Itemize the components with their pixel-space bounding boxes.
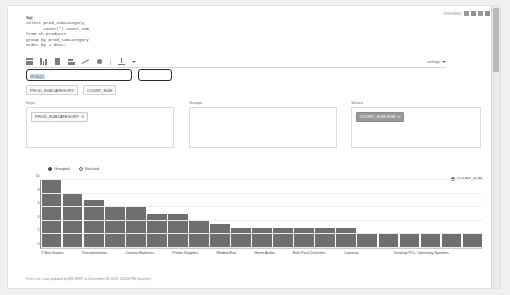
x-axis-tick bbox=[467, 251, 482, 255]
keys-chip[interactable]: PROD_SUBCATEGORY ✕ bbox=[31, 112, 88, 122]
settings-menu[interactable]: settings bbox=[427, 60, 446, 64]
chart-type-toolbar: settings bbox=[26, 56, 446, 68]
sql-editor[interactable]: Sql select prod_subcategory, count(*) co… bbox=[26, 15, 446, 49]
chevron-down-icon[interactable] bbox=[132, 61, 136, 63]
chart-bar[interactable] bbox=[231, 228, 250, 248]
chart-bar[interactable] bbox=[442, 234, 461, 248]
minimize-icon[interactable] bbox=[464, 11, 469, 16]
x-axis-tick: Camera Batteries bbox=[125, 251, 154, 255]
chart-bar[interactable] bbox=[336, 228, 355, 248]
settings-label: settings bbox=[427, 60, 440, 64]
available-fields: PROD_SUBCATEGORY COUNT_SUM bbox=[26, 85, 116, 95]
toolbar-divider bbox=[110, 59, 111, 65]
radio-grouped-label: Grouped bbox=[54, 166, 70, 171]
chart-plot-area: 0246810 bbox=[40, 180, 482, 249]
groups-dropzone[interactable] bbox=[189, 107, 337, 148]
app-window: FINISHED Sql select prod_subcategory, co… bbox=[8, 6, 500, 288]
values-chip[interactable]: COUNT_SUM SUM ✕ bbox=[356, 112, 404, 122]
y-axis-tick: 0 bbox=[38, 242, 40, 246]
remove-icon[interactable]: ✕ bbox=[81, 115, 84, 119]
chart-bar[interactable] bbox=[105, 207, 124, 248]
query-input-row: PLSQL bbox=[26, 69, 172, 81]
chart-bar[interactable] bbox=[421, 234, 440, 248]
y-axis-tick: 8 bbox=[38, 188, 40, 192]
table-icon[interactable] bbox=[26, 58, 33, 65]
chart-mode-radios: Grouped Stacked bbox=[48, 166, 99, 171]
x-axis-tick: Home Audio bbox=[254, 251, 274, 255]
menu-icon[interactable] bbox=[485, 11, 490, 16]
sql-label: Sql bbox=[26, 15, 446, 20]
values-panel-title: Values bbox=[351, 100, 481, 105]
chart-bar[interactable] bbox=[189, 221, 208, 248]
x-axis-tick bbox=[276, 251, 291, 255]
x-axis-tick: Documentation bbox=[82, 251, 107, 255]
grid-line bbox=[41, 220, 482, 221]
chart-bar[interactable] bbox=[252, 228, 271, 248]
chart-bar[interactable] bbox=[294, 228, 313, 248]
x-axis-tick bbox=[200, 251, 215, 255]
vertical-scrollbar[interactable] bbox=[491, 6, 500, 288]
bar-chart-icon[interactable] bbox=[40, 58, 47, 65]
x-axis-tick bbox=[108, 251, 123, 255]
radio-grouped[interactable]: Grouped bbox=[48, 166, 70, 171]
x-axis-tick bbox=[450, 251, 465, 255]
x-axis-tick: Modem/Fax bbox=[217, 251, 236, 255]
query-input[interactable]: PLSQL bbox=[26, 69, 132, 81]
stacked-bar-icon[interactable] bbox=[68, 58, 75, 65]
sql-code[interactable]: select prod_subcategory, count(*) count_… bbox=[26, 21, 446, 49]
x-axis-tick: Desktop PCs bbox=[394, 251, 416, 255]
keys-panel: Keys PROD_SUBCATEGORY ✕ bbox=[26, 100, 174, 148]
radio-dot-icon bbox=[48, 167, 52, 171]
x-axis-tick bbox=[238, 251, 253, 255]
chart-bar[interactable] bbox=[126, 207, 145, 248]
x-axis-tick bbox=[361, 251, 376, 255]
chart-bar[interactable] bbox=[357, 234, 376, 248]
line-chart-icon[interactable] bbox=[82, 58, 89, 65]
values-panel: Values COUNT_SUM SUM ✕ bbox=[351, 100, 481, 148]
chart-bar[interactable] bbox=[84, 200, 103, 248]
column-chart-icon[interactable] bbox=[54, 58, 61, 65]
chart-bar[interactable] bbox=[273, 228, 292, 248]
scrollbar-thumb[interactable] bbox=[493, 8, 499, 72]
chart-bars bbox=[42, 180, 482, 248]
maximize-icon[interactable] bbox=[471, 11, 476, 16]
chevron-down-icon[interactable] bbox=[442, 61, 446, 63]
footer-status: Print it on. Last updated by MILTERY at … bbox=[26, 277, 151, 281]
chart-bar[interactable] bbox=[42, 180, 61, 248]
chart-bar[interactable] bbox=[463, 234, 482, 248]
values-dropzone[interactable]: COUNT_SUM SUM ✕ bbox=[351, 107, 481, 148]
chart-bar[interactable] bbox=[379, 234, 398, 248]
keys-dropzone[interactable]: PROD_SUBCATEGORY ✕ bbox=[26, 107, 174, 148]
chart-bar[interactable] bbox=[210, 224, 229, 248]
secondary-input[interactable] bbox=[138, 69, 172, 81]
pivot-panels: Keys PROD_SUBCATEGORY ✕ Groups Values CO… bbox=[26, 100, 484, 148]
radio-dot-icon bbox=[79, 167, 83, 171]
groups-panel: Groups bbox=[189, 100, 337, 148]
chart-container: Grouped Stacked COUNT_SUM 0246810 Y Box … bbox=[26, 166, 484, 266]
keys-panel-title: Keys bbox=[26, 100, 174, 105]
remove-icon[interactable]: ✕ bbox=[397, 115, 400, 119]
x-axis-tick: Bulk Pack Diskettes bbox=[293, 251, 326, 255]
field-chip-prod-subcategory[interactable]: PROD_SUBCATEGORY bbox=[26, 85, 78, 95]
values-chip-label: COUNT_SUM SUM bbox=[360, 114, 395, 119]
x-axis-tick bbox=[155, 251, 170, 255]
x-axis-tick: Printer Supplies bbox=[172, 251, 198, 255]
grid-line bbox=[41, 206, 482, 207]
pie-chart-icon[interactable] bbox=[96, 58, 103, 65]
chart-bar[interactable] bbox=[315, 228, 334, 248]
y-axis-tick: 10 bbox=[36, 174, 40, 178]
x-axis-tick bbox=[377, 251, 392, 255]
x-axis-tick: Operating Systems bbox=[417, 251, 448, 255]
x-axis-tick bbox=[65, 251, 80, 255]
chart-bar[interactable] bbox=[400, 234, 419, 248]
y-axis-tick: 2 bbox=[38, 228, 40, 232]
field-chip-count-sum[interactable]: COUNT_SUM bbox=[83, 85, 116, 95]
radio-stacked[interactable]: Stacked bbox=[79, 166, 99, 171]
x-axis-tick: Y Box Games bbox=[41, 251, 64, 255]
close-icon[interactable] bbox=[478, 11, 483, 16]
radio-stacked-label: Stacked bbox=[85, 166, 99, 171]
query-input-value: PLSQL bbox=[30, 74, 45, 79]
chart-x-axis-labels: Y Box GamesDocumentationCamera Batteries… bbox=[41, 251, 482, 255]
download-icon[interactable] bbox=[118, 58, 125, 65]
y-axis-tick: 4 bbox=[38, 215, 40, 219]
